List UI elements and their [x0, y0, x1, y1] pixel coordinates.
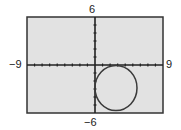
graph-window: [0, 0, 181, 130]
xmin-label: −9: [9, 59, 22, 70]
ymin-label: −6: [84, 117, 97, 128]
xmax-label: 9: [166, 59, 172, 70]
ymax-label: 6: [89, 4, 95, 15]
